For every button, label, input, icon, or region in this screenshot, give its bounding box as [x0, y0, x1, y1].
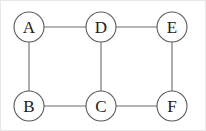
node-circle-d[interactable]	[86, 12, 116, 42]
graph-node-b[interactable]: B	[14, 91, 44, 121]
graph-node-c[interactable]: C	[86, 91, 116, 121]
graph-node-e[interactable]: E	[157, 12, 187, 42]
node-circle-e[interactable]	[157, 12, 187, 42]
node-circle-c[interactable]	[86, 91, 116, 121]
node-circle-f[interactable]	[157, 91, 187, 121]
graph-node-a[interactable]: A	[14, 12, 44, 42]
node-circle-b[interactable]	[14, 91, 44, 121]
graph-figure: ADEBCF	[0, 0, 206, 131]
graph-node-f[interactable]: F	[157, 91, 187, 121]
graph-node-d[interactable]: D	[86, 12, 116, 42]
node-circle-a[interactable]	[14, 12, 44, 42]
graph-canvas: ADEBCF	[1, 1, 206, 131]
